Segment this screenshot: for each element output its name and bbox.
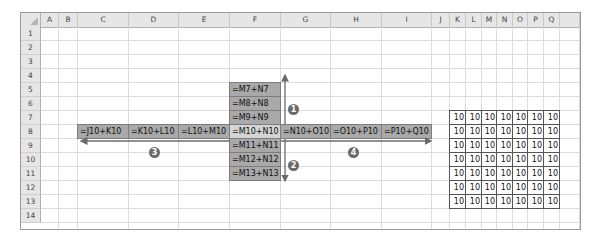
annotation-badge-3: 3	[149, 147, 160, 158]
reference-direction-arrows	[21, 13, 581, 230]
annotation-badge-1: 1	[288, 104, 299, 115]
spreadsheet-grid[interactable]: ABCDEFGHIJKLMNOPQ 1234567891011121314 =M…	[20, 12, 581, 230]
annotation-badge-2: 2	[288, 160, 299, 171]
annotation-badge-4: 4	[348, 147, 359, 158]
